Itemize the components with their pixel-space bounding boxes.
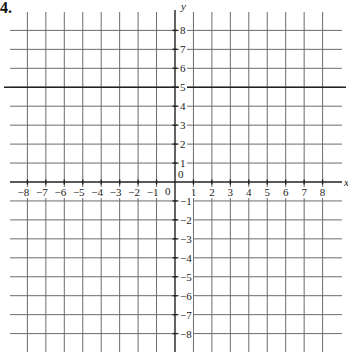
- y-tick-label: −8: [180, 328, 192, 340]
- x-tick-label: −5: [73, 186, 85, 198]
- y-tick-label: −3: [180, 233, 192, 245]
- origin-label: 0: [165, 185, 171, 197]
- x-tick-label: −3: [110, 186, 122, 198]
- y-tick-label: −1: [180, 195, 192, 207]
- y-tick-label: 5: [180, 81, 186, 93]
- coordinate-grid: −8−7−6−5−4−3−2−112345678−8−7−6−5−4−3−2−1…: [0, 0, 348, 358]
- x-axis-label: x: [343, 176, 348, 188]
- x-tick-label: 5: [265, 186, 271, 198]
- y-tick-label: 3: [180, 119, 186, 131]
- y-tick-label: −4: [180, 252, 192, 264]
- x-tick-label: 4: [246, 186, 252, 198]
- x-tick-label: −4: [91, 186, 103, 198]
- y-tick-label: −7: [180, 309, 192, 321]
- x-tick-label: 7: [301, 186, 307, 198]
- x-tick-label: −6: [54, 186, 66, 198]
- y-tick-label: −6: [180, 290, 192, 302]
- x-tick-label: 3: [228, 186, 234, 198]
- y-tick-label: 2: [180, 138, 186, 150]
- x-tick-label: 8: [320, 186, 326, 198]
- origin-label: 0: [178, 168, 184, 180]
- x-tick-label: 2: [209, 186, 215, 198]
- x-tick-label: 6: [283, 186, 289, 198]
- x-tick-label: −2: [128, 186, 140, 198]
- y-tick-label: 7: [180, 43, 186, 55]
- x-tick-label: −7: [36, 186, 48, 198]
- y-tick-label: 4: [180, 100, 186, 112]
- y-axis-label: y: [180, 0, 186, 12]
- y-tick-label: −5: [180, 271, 192, 283]
- x-tick-label: −1: [147, 186, 159, 198]
- y-tick-label: 8: [180, 24, 186, 36]
- x-tick-label: −8: [18, 186, 30, 198]
- y-tick-label: −2: [180, 214, 192, 226]
- y-tick-label: 6: [180, 62, 186, 74]
